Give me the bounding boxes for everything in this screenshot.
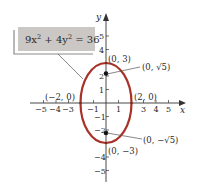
focus-top-point (104, 71, 109, 76)
x-tick-label: 5 (166, 105, 171, 114)
y-tick-label: 2 (99, 72, 104, 81)
y-arrow-icon (103, 13, 109, 21)
label-left-covertex: (−2, 0) (45, 92, 75, 102)
y-tick-label: 5 (99, 32, 104, 41)
label-right-covertex: (2, 0) (134, 92, 157, 102)
y-tick-label: −5 (94, 167, 106, 176)
x-tick-label: 1 (116, 105, 121, 114)
equation-leader-line (58, 54, 83, 79)
ellipse-diagram: 9x2 + 4y2 = 36 x −5 −4 −3 −1 (0, 0, 201, 184)
y-tick-label: −4 (94, 153, 106, 162)
x-tick-label: −3 (62, 105, 74, 114)
x-tick-label: 3 (141, 105, 146, 114)
x-tick-label: −4 (49, 105, 61, 114)
equation-label: 9x2 + 4y2 = 36 (25, 33, 100, 45)
focus-bottom-leader (107, 133, 142, 139)
y-tick-label: 1 (99, 86, 104, 95)
y-tick-label: −1 (94, 113, 106, 122)
label-focus-top: (0, √5) (142, 62, 170, 72)
y-axis-label: y (95, 12, 102, 22)
y-tick-label: 4 (99, 46, 104, 55)
x-axis: x −5 −4 −3 −1 1 3 4 5 (30, 100, 186, 115)
x-axis-label: x (180, 105, 185, 115)
label-focus-bottom: (0, −√5) (143, 135, 178, 145)
x-tick-label: 4 (154, 105, 159, 114)
x-tick-label: −5 (35, 105, 47, 114)
equation-callout: 9x2 + 4y2 = 36 (14, 27, 100, 79)
label-top-vertex: (0, 3) (108, 54, 131, 64)
label-bottom-vertex: (0, −3) (108, 146, 138, 156)
